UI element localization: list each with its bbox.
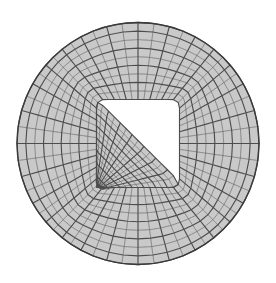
mesh-cell (126, 221, 138, 230)
mesh-cell (232, 144, 242, 159)
mesh-cell (128, 65, 138, 74)
mesh-cell (70, 144, 79, 154)
mesh-cell (125, 230, 138, 239)
mesh-cell (44, 144, 54, 157)
mesh-cell (128, 213, 138, 222)
mesh-cell (44, 130, 54, 143)
mesh-cell (138, 48, 151, 57)
mesh-cell (138, 230, 151, 239)
mesh-figure (0, 0, 276, 283)
mesh-cell (138, 74, 147, 83)
mesh-cell (206, 133, 215, 144)
mesh-cell (214, 144, 223, 156)
mesh-cell (129, 204, 138, 213)
mesh-cell (206, 144, 215, 155)
mesh-cell (138, 57, 150, 66)
mesh-cell (129, 74, 138, 83)
mesh-cell (138, 40, 152, 49)
mesh-cell (138, 247, 153, 256)
mesh-cell (124, 40, 138, 49)
mesh-cell (123, 31, 138, 40)
mesh-cell (223, 144, 233, 157)
mesh-cell (126, 57, 138, 66)
mesh-cell (125, 48, 138, 57)
mesh-cell (138, 221, 150, 230)
mesh-cell (197, 134, 206, 144)
mesh-cell (138, 204, 147, 213)
mesh-cell (124, 238, 138, 247)
mesh-cell (138, 213, 148, 222)
mesh-cell (35, 144, 45, 159)
mesh-cell (223, 130, 233, 143)
mesh-cell (52, 131, 61, 143)
mesh-cell (232, 129, 242, 144)
mesh-cell (138, 31, 153, 40)
mesh-cell (52, 144, 61, 156)
mesh-canvas (0, 0, 276, 283)
mesh-cell (61, 144, 70, 155)
mesh-cell (35, 129, 45, 144)
mesh-cell (61, 133, 70, 144)
mesh-cell (138, 238, 152, 247)
mesh-cell (214, 131, 223, 143)
mesh-cell (197, 144, 206, 154)
mesh-cell (70, 134, 79, 144)
mesh-cell (138, 65, 148, 74)
mesh-cell (123, 247, 138, 256)
